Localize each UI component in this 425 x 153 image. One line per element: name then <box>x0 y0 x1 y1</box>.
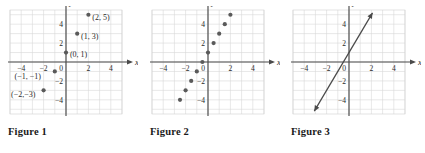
figure-2-coordinate-plane: xy−4−22442−2−40 <box>142 6 280 118</box>
x-tick-label: −2 <box>323 64 331 73</box>
x-tick-label: 4 <box>109 64 113 73</box>
data-point <box>195 69 199 73</box>
figure-row: xy−4−22442−2−40(−2,−3)(−1, −1)(0, 1)(1, … <box>0 0 425 153</box>
data-point <box>189 79 193 83</box>
y-tick-label: 4 <box>201 20 205 29</box>
data-point <box>64 50 68 54</box>
data-point <box>86 13 90 17</box>
data-point-label: (−1, −1) <box>14 72 41 81</box>
x-tick-label: −4 <box>159 64 167 73</box>
data-point-label: (2, 5) <box>92 13 110 22</box>
origin-label: 0 <box>59 64 63 73</box>
origin-label: 0 <box>342 64 346 73</box>
data-point <box>206 50 210 54</box>
x-tick-label: 2 <box>229 64 233 73</box>
figure-2: xy−4−22442−2−40 Figure 2 <box>142 0 282 153</box>
y-tick-label: 4 <box>342 20 346 29</box>
x-axis-label: x <box>276 58 280 67</box>
y-axis-label: y <box>211 6 216 7</box>
x-axis-arrow-icon <box>269 59 275 64</box>
figure-1-plot: xy−4−22442−2−40(−2,−3)(−1, −1)(0, 1)(1, … <box>0 6 138 118</box>
data-point <box>228 13 232 17</box>
x-tick-label: 2 <box>370 64 374 73</box>
figure-3: xy−4−22442−2−40 Figure 3 <box>283 0 423 153</box>
y-tick-label: −4 <box>55 96 63 105</box>
data-point-label: (0, 1) <box>70 50 88 59</box>
x-tick-label: 4 <box>392 64 396 73</box>
figure-3-caption: Figure 3 <box>291 126 330 137</box>
x-axis-arrow-icon <box>410 59 416 64</box>
x-tick-label: −4 <box>300 64 308 73</box>
y-tick-label: −4 <box>197 96 205 105</box>
y-tick-label: −2 <box>338 77 346 86</box>
x-tick-label: 2 <box>87 64 91 73</box>
data-point <box>75 32 79 36</box>
data-point <box>212 41 216 45</box>
y-tick-label: −4 <box>338 96 346 105</box>
data-point-label: (1, 3) <box>81 32 99 41</box>
y-tick-label: 2 <box>342 39 346 48</box>
data-point-label: (−2,−3) <box>11 90 36 99</box>
x-axis-label: x <box>417 58 421 67</box>
data-point <box>223 22 227 26</box>
data-point <box>217 32 221 36</box>
data-point <box>42 88 46 92</box>
figure-1-coordinate-plane: xy−4−22442−2−40(−2,−3)(−1, −1)(0, 1)(1, … <box>0 6 138 118</box>
y-axis-label: y <box>69 6 74 7</box>
figure-3-coordinate-plane: xy−4−22442−2−40 <box>283 6 421 118</box>
figure-1: xy−4−22442−2−40(−2,−3)(−1, −1)(0, 1)(1, … <box>0 0 140 153</box>
data-point <box>178 98 182 102</box>
x-axis-label: x <box>134 58 138 67</box>
origin-label: 0 <box>201 64 205 73</box>
figure-2-caption: Figure 2 <box>150 126 189 137</box>
y-axis-label: y <box>352 6 357 7</box>
x-axis-arrow-icon <box>127 59 133 64</box>
y-tick-label: 2 <box>201 39 205 48</box>
figure-2-plot: xy−4−22442−2−40 <box>142 6 280 118</box>
data-point <box>184 88 188 92</box>
y-tick-label: −2 <box>55 77 63 86</box>
figure-1-caption: Figure 1 <box>8 126 47 137</box>
x-tick-label: 4 <box>251 64 255 73</box>
y-tick-label: 4 <box>59 20 63 29</box>
data-point <box>200 60 204 64</box>
x-tick-label: −2 <box>182 64 190 73</box>
y-tick-label: 2 <box>59 39 63 48</box>
data-point <box>53 69 57 73</box>
y-tick-label: −2 <box>197 77 205 86</box>
figure-3-plot: xy−4−22442−2−40 <box>283 6 421 118</box>
